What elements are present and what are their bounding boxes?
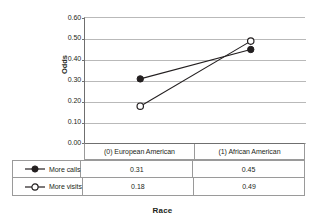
filled-circle-icon [25,164,45,174]
y-tick-label: 0.10 [55,118,81,125]
data-cell: 0.49 [193,178,304,195]
category-label-1: (1) African American [194,144,304,159]
x-axis-title: Race [0,206,325,215]
legend-label: More calls [49,166,80,173]
category-header-row: (0) European American (1) African Americ… [84,143,305,160]
y-axis-title: Odds [60,45,69,85]
open-circle-icon [25,182,45,192]
category-label-0: (0) European American [85,144,194,159]
data-table-row: More visits 0.18 0.49 [12,178,305,196]
series-lines [85,18,306,144]
plot-area [84,17,305,143]
y-tick-label: 0.60 [55,14,81,21]
data-table-row: More calls 0.31 0.45 [12,160,305,178]
chart-figure: 0.60 0.50 0.40 0.30 0.20 0.10 0.00 Odds … [0,0,325,221]
legend-entry-more-calls: More calls [13,161,81,177]
y-tick-label: 0.20 [55,97,81,104]
y-tick-label: 0.50 [55,34,81,41]
legend-entry-more-visits: More visits [13,178,83,195]
data-cell: 0.18 [83,178,193,195]
data-cell: 0.45 [192,161,304,177]
legend-label: More visits [49,183,82,190]
data-cell: 0.31 [81,161,192,177]
y-tick-label: 0.00 [55,139,81,146]
